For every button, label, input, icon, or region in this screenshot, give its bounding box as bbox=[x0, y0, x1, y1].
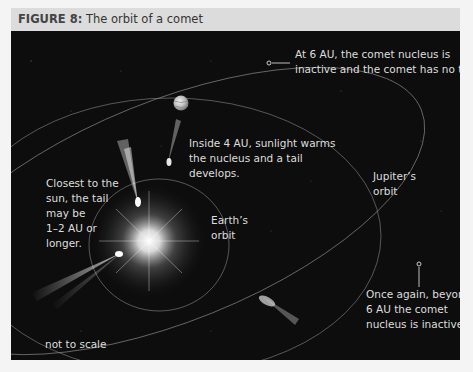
six-au-marker-top bbox=[267, 61, 290, 65]
comet-orbit-figure: FIGURE 8: The orbit of a comet bbox=[11, 8, 460, 360]
figure-caption: FIGURE 8: The orbit of a comet bbox=[11, 8, 460, 31]
label-not-to-scale: not to scale bbox=[45, 337, 106, 352]
comet-4au-icon bbox=[167, 119, 182, 166]
label-six-au-inactive: At 6 AU, the comet nucleus is inactive a… bbox=[295, 47, 460, 77]
label-jupiter-orbit: Jupiter’s orbit bbox=[373, 169, 416, 199]
diagram-panel: At 6 AU, the comet nucleus is inactive a… bbox=[11, 31, 460, 360]
jupiter-planet-icon bbox=[174, 96, 189, 111]
label-once-again-inactive: Once again, beyond 6 AU the comet nucleu… bbox=[366, 287, 460, 332]
label-inside-4au: Inside 4 AU, sunlight warms the nucleus … bbox=[189, 136, 335, 181]
figure-number: FIGURE 8: bbox=[18, 12, 82, 26]
label-closest-to-sun: Closest to the sun, the tail may be 1–2 … bbox=[46, 176, 119, 251]
six-au-marker-bottom bbox=[417, 262, 421, 287]
label-earth-orbit: Earth’s orbit bbox=[211, 213, 248, 243]
figure-title: The orbit of a comet bbox=[82, 12, 203, 26]
comet-outbound-icon bbox=[257, 293, 299, 325]
